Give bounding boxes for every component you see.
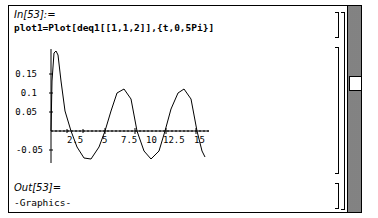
input-code[interactable]: plot1=Plot[deq1[[1,1,2]],{t,0,5Pi}] <box>14 22 214 33</box>
input-cell-bracket[interactable] <box>335 12 339 38</box>
svg-text:12.5: 12.5 <box>163 135 185 145</box>
graphics-cell-bracket[interactable] <box>335 47 339 174</box>
vertical-scrollbar[interactable] <box>347 5 362 213</box>
output-cell-bracket[interactable] <box>335 183 339 209</box>
svg-text:0.1: 0.1 <box>21 88 37 98</box>
svg-text:7.5: 7.5 <box>121 135 137 145</box>
svg-text:2.5: 2.5 <box>67 135 83 145</box>
svg-text:-0.05: -0.05 <box>16 145 43 155</box>
svg-text:5: 5 <box>102 135 107 145</box>
notebook-window: In[53]:= plot1=Plot[deq1[[1,1,2]],{t,0,5… <box>8 5 362 213</box>
output-label: Out[53]= <box>14 182 61 193</box>
group-cell-bracket[interactable] <box>341 12 345 210</box>
scrollbar-thumb[interactable] <box>349 76 362 91</box>
svg-text:0.05: 0.05 <box>15 107 37 117</box>
svg-text:0.15: 0.15 <box>15 69 37 79</box>
svg-text:10: 10 <box>146 135 157 145</box>
output-value: -Graphics- <box>14 197 71 208</box>
svg-text:15: 15 <box>194 135 205 145</box>
input-label: In[53]:= <box>14 9 56 20</box>
plot-graphic[interactable]: 0.15 0.1 0.05 -0.05 2.5 5 7.5 10 12.5 15 <box>9 41 209 166</box>
